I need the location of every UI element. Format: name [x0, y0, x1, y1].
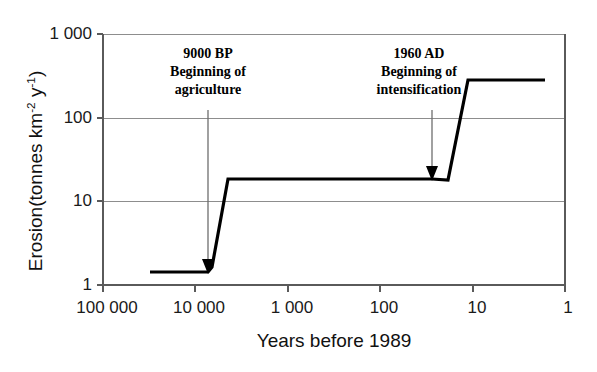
x-tick-label-1: 1	[563, 298, 572, 318]
annotation-leader-agriculture	[202, 110, 214, 274]
y-axis-title-mid: y	[25, 88, 46, 103]
annotation-leader-intensification	[426, 110, 438, 181]
annotation-agriculture-line-1: 9000 BP	[128, 45, 288, 63]
y-axis-title-sup-y: -1	[24, 77, 37, 87]
annotation-intensification: 1960 AD Beginning of intensification	[330, 45, 508, 100]
y-axis-title-sup-km: -2	[24, 102, 37, 112]
y-axis-title-suffix: )	[25, 71, 46, 77]
erosion-series-line	[150, 80, 545, 272]
annotation-intensification-line-1: 1960 AD	[330, 45, 508, 63]
x-tick-label-100: 100	[370, 298, 398, 318]
y-tick-marks	[97, 34, 103, 285]
y-axis-title: Erosion(tonnes km-2 y-1)	[25, 31, 47, 311]
y-axis-title-prefix: Erosion(tonnes km	[25, 113, 46, 271]
x-tick-label-100000: 100 000	[76, 298, 137, 318]
erosion-log-log-chart: 1 000 100 10 1 100 000 10 000 1 000 100 …	[0, 0, 597, 372]
annotation-agriculture-line-3: agriculture	[128, 81, 288, 99]
x-tick-marks	[103, 285, 565, 292]
annotation-agriculture: 9000 BP Beginning of agriculture	[128, 45, 288, 100]
annotation-intensification-line-2: Beginning of	[330, 63, 508, 81]
annotation-agriculture-line-2: Beginning of	[128, 63, 288, 81]
x-tick-label-1000: 1 000	[271, 298, 314, 318]
x-tick-label-10000: 10 000	[173, 298, 225, 318]
x-tick-label-10: 10	[468, 298, 487, 318]
x-axis-title: Years before 1989	[103, 330, 565, 352]
annotation-intensification-line-3: intensification	[330, 81, 508, 99]
